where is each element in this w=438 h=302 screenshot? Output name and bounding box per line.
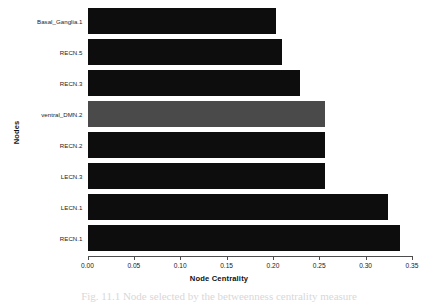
x-tick-label: 0.15 xyxy=(220,262,233,269)
x-tick-mark xyxy=(227,256,228,260)
x-tick-mark xyxy=(319,256,320,260)
bar-basal-ganglia-1[interactable] xyxy=(88,8,276,34)
x-tick-label: 0.00 xyxy=(81,262,94,269)
bar-lecn-3[interactable] xyxy=(88,163,325,189)
y-tick-label: Basal_Ganglia.1 xyxy=(37,18,82,25)
x-tick-label: 0.05 xyxy=(127,262,140,269)
x-axis-title: Node Centrality xyxy=(0,274,438,283)
figure-caption: Fig. 11.1 Node selected by the betweenne… xyxy=(0,290,438,302)
y-tick-label: LECN.1 xyxy=(61,204,83,211)
x-tick-mark xyxy=(134,256,135,260)
x-tick-mark xyxy=(366,256,367,260)
x-tick-label: 0.25 xyxy=(313,262,326,269)
bar-recn-3[interactable] xyxy=(88,70,300,96)
y-tick-label: RECN.1 xyxy=(60,235,83,242)
bar-ventral-dmn-2[interactable] xyxy=(88,101,325,127)
x-axis-line: 0.00 0.05 0.10 0.15 0.20 0.25 0.30 0.35 xyxy=(88,256,413,257)
y-tick-label: ventral_DMN.2 xyxy=(41,111,82,118)
x-tick-label: 0.20 xyxy=(267,262,280,269)
bar-recn-5[interactable] xyxy=(88,39,283,65)
x-tick-mark xyxy=(180,256,181,260)
bar-lecn-1[interactable] xyxy=(88,194,388,220)
x-tick-mark xyxy=(88,256,89,260)
y-tick-label: RECN.5 xyxy=(60,49,83,56)
x-tick-label: 0.30 xyxy=(359,262,372,269)
y-tick-label: RECN.2 xyxy=(60,142,83,149)
y-tick-label: LECN.3 xyxy=(61,173,83,180)
x-tick-label: 0.35 xyxy=(406,262,419,269)
bar-recn-2[interactable] xyxy=(88,132,325,158)
x-tick-mark xyxy=(273,256,274,260)
y-axis-title: Nodes xyxy=(12,103,21,163)
bar-recn-1[interactable] xyxy=(88,225,401,251)
y-tick-label: RECN.3 xyxy=(60,80,83,87)
x-tick-mark xyxy=(412,256,413,260)
x-tick-label: 0.10 xyxy=(174,262,187,269)
plot-area: Basal_Ganglia.1 RECN.5 RECN.3 ventral_DM… xyxy=(88,8,413,253)
